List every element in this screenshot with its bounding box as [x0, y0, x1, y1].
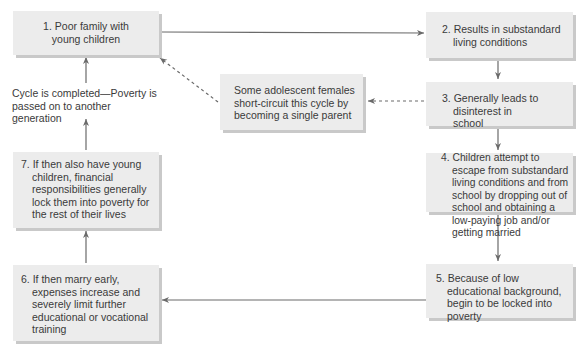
step-3-box: 3. Generally leads to disinterest in sch… — [426, 82, 573, 126]
step-2-text: 2. Results in substandard living conditi… — [442, 23, 565, 48]
step-2-box: 2. Results in substandard living conditi… — [426, 12, 573, 58]
step-5-box: 5. Because of low educational background… — [426, 264, 573, 318]
step-7-text: 7. If then also have young children, fin… — [21, 158, 153, 221]
step-4-text: 4. Children attempt to escape from subst… — [441, 152, 569, 240]
step-7-box: 7. If then also have young children, fin… — [13, 152, 159, 228]
arrow-1-to-2 — [162, 32, 424, 33]
step-6-text: 6. If then marry early, expenses increas… — [21, 273, 153, 336]
dashed-arrow-note-to-1 — [160, 58, 218, 102]
step-6-box: 6. If then marry early, expenses increas… — [13, 265, 159, 341]
step-1-text: 1. Poor family with young children — [35, 20, 137, 45]
cycle-completed-label: Cycle is completed—Poverty is passed on … — [12, 87, 162, 125]
side-note-box: Some adolescent females short-circuit th… — [220, 74, 363, 130]
step-1-box: 1. Poor family with young children — [13, 11, 159, 55]
step-4-box: 4. Children attempt to escape from subst… — [426, 153, 573, 212]
step-5-text: 5. Because of low educational background… — [436, 272, 565, 322]
side-note-text: Some adolescent females short-circuit th… — [234, 84, 357, 122]
step-3-text: 3. Generally leads to disinterest in sch… — [442, 92, 543, 130]
